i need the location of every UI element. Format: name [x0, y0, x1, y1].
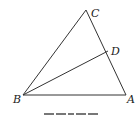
label-c: C — [91, 7, 100, 20]
cut-off-caption — [44, 113, 98, 115]
label-b: B — [12, 93, 21, 106]
label-a: A — [126, 93, 135, 106]
label-d: D — [110, 45, 120, 58]
segment-bc — [23, 10, 86, 95]
triangle-diagram: C D B A — [0, 0, 140, 115]
segment-bd — [23, 51, 108, 95]
